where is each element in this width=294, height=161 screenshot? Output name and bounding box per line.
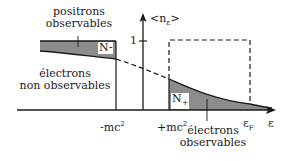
n-plus-sign: +: [182, 98, 189, 107]
y-axis-label-text: <n: [150, 12, 166, 25]
n-minus-label: N-: [98, 42, 113, 54]
electrons-non-line2: non observables: [16, 80, 114, 92]
neg-mc2-label: -mc2: [100, 118, 125, 134]
electrons-obs-line2: observables: [178, 137, 248, 149]
positrons-annotation: positrons observables: [44, 6, 114, 30]
electrons-non-observables-annotation: électrons non observables: [16, 68, 114, 92]
x-axis-label: ε: [268, 118, 274, 130]
electrons-observables-annotation: électrons observables: [178, 125, 248, 149]
neg-mc2-sup: 2: [120, 120, 124, 128]
y-tick-label: 1: [130, 35, 137, 47]
pos-mc2-label: +mc2: [157, 118, 187, 134]
n-minus-text: N-: [99, 41, 112, 54]
pos-mc2-sup: 2: [183, 120, 187, 128]
n-plus-text: N: [172, 92, 182, 105]
pos-mc2-text: +mc: [157, 121, 183, 134]
fermi-label: εF: [243, 118, 254, 134]
positrons-line2: observables: [44, 18, 114, 30]
y-axis-label-close: >: [170, 12, 179, 25]
y-axis-label: <nε>: [150, 13, 180, 29]
fermi-sub: F: [249, 124, 254, 132]
n-plus-label: N+: [171, 93, 189, 109]
neg-mc2-text: -mc: [100, 121, 120, 134]
